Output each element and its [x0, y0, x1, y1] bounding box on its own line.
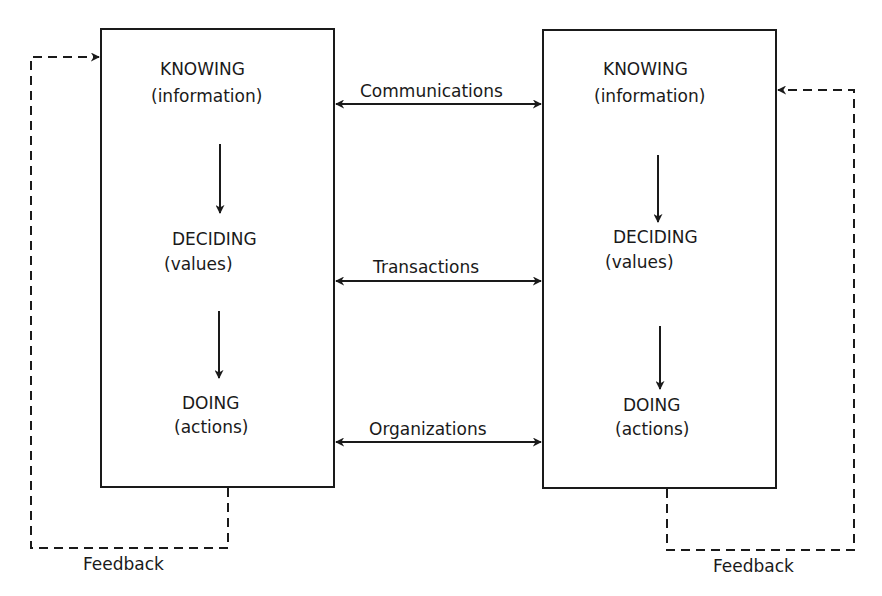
left-deciding-sub-label: (values) — [164, 254, 233, 274]
communications-label: Communications — [360, 81, 503, 101]
right-doing-label: DOING — [623, 395, 680, 415]
left-knowing-label: KNOWING — [160, 59, 245, 79]
right-feedback-loop: Feedback — [667, 90, 854, 576]
left-doing-sub-label: (actions) — [174, 417, 248, 437]
right-doing-sub-label: (actions) — [615, 419, 689, 439]
right-deciding-label: DECIDING — [613, 227, 698, 247]
transactions-link: Transactions — [336, 257, 541, 281]
left-agent-box: KNOWING (information) DECIDING (values) … — [101, 29, 334, 487]
organizations-label: Organizations — [369, 419, 487, 439]
right-knowing-label: KNOWING — [603, 59, 688, 79]
left-feedback-loop: Feedback — [31, 57, 228, 574]
left-knowing-sub-label: (information) — [151, 86, 262, 106]
right-feedback-label: Feedback — [713, 556, 794, 576]
right-knowing-sub-label: (information) — [594, 86, 705, 106]
communications-link: Communications — [336, 81, 541, 104]
right-agent-box: KNOWING (information) DECIDING (values) … — [543, 30, 776, 488]
transactions-label: Transactions — [372, 257, 479, 277]
right-feedback-dashed-arrow — [667, 90, 854, 550]
left-feedback-dashed-arrow — [31, 57, 228, 548]
right-deciding-sub-label: (values) — [605, 252, 674, 272]
left-doing-label: DOING — [182, 393, 239, 413]
organizations-link: Organizations — [336, 419, 541, 442]
knowing-deciding-doing-diagram: KNOWING (information) DECIDING (values) … — [0, 0, 882, 596]
left-deciding-label: DECIDING — [172, 229, 257, 249]
left-feedback-label: Feedback — [83, 554, 164, 574]
